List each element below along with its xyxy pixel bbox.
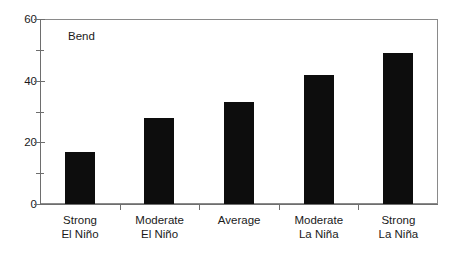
x-axis-category-labels: Strong El Niño Moderate El Niño Average …	[40, 213, 438, 253]
x-axis-baseline	[40, 204, 438, 205]
bar-moderate-la-nina[interactable]	[304, 75, 334, 205]
y-tick-label-40: 40	[3, 75, 37, 87]
y-tick-label-20: 20	[3, 136, 37, 148]
bar-moderate-el-nino[interactable]	[144, 118, 174, 204]
x-tick-mark-1	[120, 204, 121, 210]
bars-container	[40, 19, 438, 204]
x-tick-mark-4	[358, 204, 359, 210]
bar-strong-el-nino[interactable]	[65, 152, 95, 204]
x-tick-mark-2	[199, 204, 200, 210]
x-label-strong-la-nina: Strong La Niña	[350, 213, 446, 241]
x-tick-mark-3	[279, 204, 280, 210]
bar-chart: Bend 0 20 40 60 Strong El Niño Moderate …	[0, 0, 450, 260]
bar-strong-la-nina[interactable]	[383, 53, 413, 204]
bar-average[interactable]	[224, 102, 254, 204]
y-tick-label-60: 60	[3, 13, 37, 25]
y-tick-label-0: 0	[3, 198, 37, 210]
